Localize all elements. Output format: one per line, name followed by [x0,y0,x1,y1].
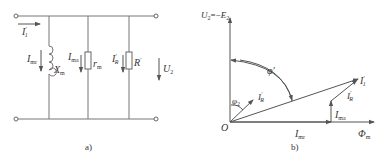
i1-label: I′1 [359,75,366,87]
rm-label: rm [93,58,102,70]
phasor-diagram: U2=−E2 Φm O I′1 I′R Imr Ima I′R φ′ φ2 b) [201,10,374,152]
ima-label: Ima [67,51,79,63]
imr-label: Imr [26,53,37,65]
terminal-bottom-right [154,117,158,121]
terminal-bottom-left [14,117,18,121]
origin-label: O [221,122,228,133]
equivalent-circuit: I′1 Imr Xm Ima rm I′R R′ U2 a) [14,14,173,152]
terminal-top-left [14,14,18,18]
terminal-top-right [154,14,158,18]
resistor-r-prime-icon [126,52,132,69]
caption-b: b) [291,142,299,152]
phi-prime-arc-return [240,60,292,100]
u2-label: U2 [163,63,173,75]
ir-origin-label: I′R [257,91,264,103]
imr-phasor-label: Imr [294,128,305,140]
input-current-label: I′1 [21,26,28,38]
caption-a: a) [85,142,92,152]
figure: I′1 Imr Xm Ima rm I′R R′ U2 a) U2=−E2 Φ [0,0,389,161]
vertical-axis-label: U2=−E2 [201,10,229,21]
phi2-label: φ2 [232,96,240,107]
ir-tip-label: I′R [346,90,353,102]
ima-phasor-label: Ima [334,109,346,121]
r-prime-label: R′ [133,57,142,68]
phi-m-label: Φm [358,128,371,140]
ir-label: I′R [111,53,119,65]
resistor-rm-icon [85,52,91,69]
phi-prime-label: φ′ [267,65,276,76]
xm-label: Xm [53,64,65,76]
ir-tip-vector [331,80,357,101]
